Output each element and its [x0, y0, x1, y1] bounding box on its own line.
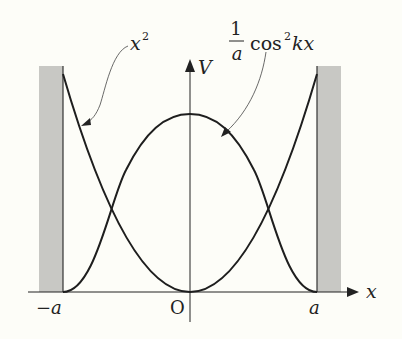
potential-diagram: x 2 1 a cos 2 kx V x O −a a [0, 0, 402, 339]
cosine-label-denominator: a [232, 43, 243, 64]
parabola-leader [86, 46, 128, 123]
origin-label: O [170, 297, 185, 318]
left-wall [39, 66, 63, 292]
right-wall [317, 66, 341, 292]
parabola-label-exponent: 2 [142, 30, 149, 43]
y-axis-label: V [198, 56, 214, 78]
cosine-label-exponent: 2 [284, 30, 291, 43]
y-axis-arrow-icon [185, 59, 195, 72]
cosine-label-arg: kx [292, 32, 315, 54]
cosine-label-func: cos [250, 32, 282, 54]
x-axis-label: x [366, 280, 377, 302]
cosine-label-numerator: 1 [230, 18, 241, 39]
x-axis-arrow-icon [347, 287, 359, 297]
parabola-leader-arrow-icon [81, 118, 91, 126]
right-tick-label: a [309, 297, 320, 318]
parabola-label: x [130, 32, 141, 54]
left-tick-label: −a [36, 297, 62, 318]
cosine-leader [226, 52, 266, 132]
